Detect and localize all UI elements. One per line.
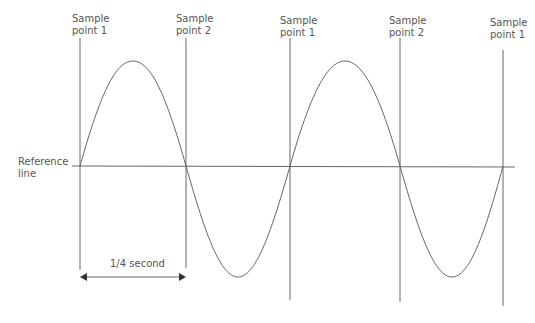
- label-text: point 1: [280, 27, 318, 39]
- sample-label-3: Sample point 1: [280, 15, 318, 39]
- label-text: point 1: [72, 25, 110, 37]
- sample-label-5: Sample point 1: [490, 17, 528, 41]
- label-text: point 2: [389, 27, 427, 39]
- reference-line: [72, 166, 515, 167]
- sample-label-4: Sample point 2: [389, 15, 427, 39]
- arrowhead-right-icon: [179, 273, 186, 281]
- sample-label-2: Sample point 2: [176, 13, 214, 37]
- label-text: Sample: [176, 13, 214, 25]
- label-text: point 1: [490, 29, 528, 41]
- label-text: line: [18, 168, 68, 180]
- label-text: point 2: [176, 25, 214, 37]
- waveform-canvas: [0, 0, 535, 323]
- sampling-diagram: Sample point 1 Sample point 2 Sample poi…: [0, 0, 535, 323]
- interval-label: 1/4 second: [110, 258, 165, 270]
- label-text: Sample: [72, 13, 110, 25]
- arrowhead-left-icon: [80, 273, 87, 281]
- reference-line-label: Reference line: [18, 156, 68, 180]
- label-text: Reference: [18, 156, 68, 168]
- label-text: Sample: [280, 15, 318, 27]
- label-text: Sample: [490, 17, 528, 29]
- sine-wave: [80, 61, 503, 277]
- label-text: Sample: [389, 15, 427, 27]
- sample-label-1: Sample point 1: [72, 13, 110, 37]
